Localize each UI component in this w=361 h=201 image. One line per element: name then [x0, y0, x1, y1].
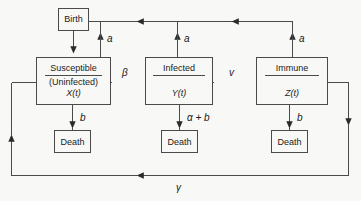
- diagram-canvas: Birth Susceptible (Uninfected) X(t) Infe…: [0, 0, 361, 201]
- label-birth-rate-immune: a: [299, 33, 305, 44]
- box-immune-variable: Z(t): [285, 88, 299, 99]
- box-death-infected-label: Death: [167, 137, 191, 147]
- label-loss-of-immunity-rate: γ: [176, 182, 181, 193]
- box-death-infected[interactable]: Death: [161, 130, 198, 153]
- box-susceptible-variable: X(t): [66, 88, 81, 99]
- box-susceptible-qualifier: (Uninfected): [49, 77, 98, 88]
- label-death-rate-infected: α + b: [187, 112, 210, 123]
- label-birth-rate-susceptible: a: [107, 33, 113, 44]
- box-birth[interactable]: Birth: [58, 8, 89, 31]
- label-death-rate-immune: b: [297, 112, 303, 123]
- box-immune-divider: [265, 75, 320, 76]
- label-recovery-rate: v: [229, 67, 234, 78]
- label-transmission-rate: β: [122, 67, 128, 78]
- box-birth-label: Birth: [64, 14, 83, 25]
- box-immune-name: Immune: [276, 63, 309, 74]
- box-susceptible[interactable]: Susceptible (Uninfected) X(t): [36, 57, 111, 105]
- box-death-susceptible-label: Death: [60, 137, 84, 147]
- box-infected[interactable]: Infected Y(t): [145, 57, 213, 105]
- box-infected-divider: [153, 75, 204, 76]
- box-death-susceptible[interactable]: Death: [54, 130, 91, 153]
- box-susceptible-divider: [45, 75, 102, 76]
- box-death-immune[interactable]: Death: [271, 130, 308, 153]
- box-infected-variable: Y(t): [172, 88, 187, 99]
- box-infected-name: Infected: [163, 63, 195, 74]
- box-susceptible-name: Susceptible: [50, 63, 97, 74]
- label-death-rate-susceptible: b: [80, 112, 86, 123]
- box-death-immune-label: Death: [277, 137, 301, 147]
- label-birth-rate-infected: a: [184, 33, 190, 44]
- box-immune[interactable]: Immune Z(t): [256, 57, 328, 105]
